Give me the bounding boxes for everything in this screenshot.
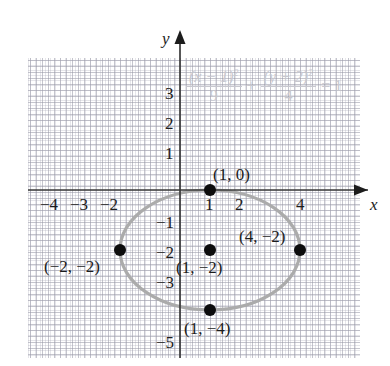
equation-fraction-y: (y + 2)2 4 xyxy=(261,68,317,104)
point-label-4--2: (4, −2) xyxy=(239,228,285,245)
x-tick-label-2: 2 xyxy=(235,196,244,213)
data-point xyxy=(204,244,216,256)
y-axis-arrow-icon xyxy=(175,30,186,44)
y-tick-label--5: −5 xyxy=(156,334,174,351)
plot-canvas xyxy=(0,0,390,366)
x-tick-label-1: 1 xyxy=(205,196,214,213)
point-label-1--4: (1, −4) xyxy=(184,320,230,337)
data-point xyxy=(204,304,216,316)
y-tick-label-1: 1 xyxy=(165,145,174,162)
equation-equals-one: = 1 xyxy=(318,78,345,94)
equation-x-rest: − 1) xyxy=(201,68,233,85)
ellipse-equation: (x − 1)2 9 + (y + 2)2 4 = 1 xyxy=(184,68,345,104)
y-tick-label-3: 3 xyxy=(165,85,174,102)
x-tick-label--4: −4 xyxy=(40,196,58,213)
point-label-1--2: (1, −2) xyxy=(176,259,222,276)
y-tick-label--1: −1 xyxy=(156,214,174,231)
x-tick-label--2: −2 xyxy=(100,196,118,213)
y-tick-label--2: −2 xyxy=(156,244,174,261)
x-axis-label: x xyxy=(370,196,378,213)
data-point xyxy=(114,244,126,256)
y-tick-label-2: 2 xyxy=(165,115,174,132)
equation-denominator-4: 4 xyxy=(281,87,295,104)
y-tick-label--3: −3 xyxy=(156,274,174,291)
data-point xyxy=(294,244,306,256)
x-tick-label--3: −3 xyxy=(70,196,88,213)
point-label-1-0: (1, 0) xyxy=(213,166,250,183)
equation-y-exponent: 2 xyxy=(308,67,313,78)
y-axis-label: y xyxy=(162,30,170,47)
equation-fraction-x: (x − 1)2 9 xyxy=(186,68,242,104)
equation-y-var: y xyxy=(269,68,276,85)
equation-x-exponent: 2 xyxy=(234,67,239,78)
equation-denominator-9: 9 xyxy=(207,87,221,104)
equation-plus-sign: + xyxy=(244,78,259,94)
point-label--2--2: (−2, −2) xyxy=(44,258,100,275)
equation-y-rest: + 2) xyxy=(276,68,308,85)
x-axis-arrow-icon xyxy=(354,185,368,196)
x-tick-label-4: 4 xyxy=(296,196,305,213)
graph-figure: (x − 1)2 9 + (y + 2)2 4 = 1 y x −4 −3 −2… xyxy=(0,0,390,366)
